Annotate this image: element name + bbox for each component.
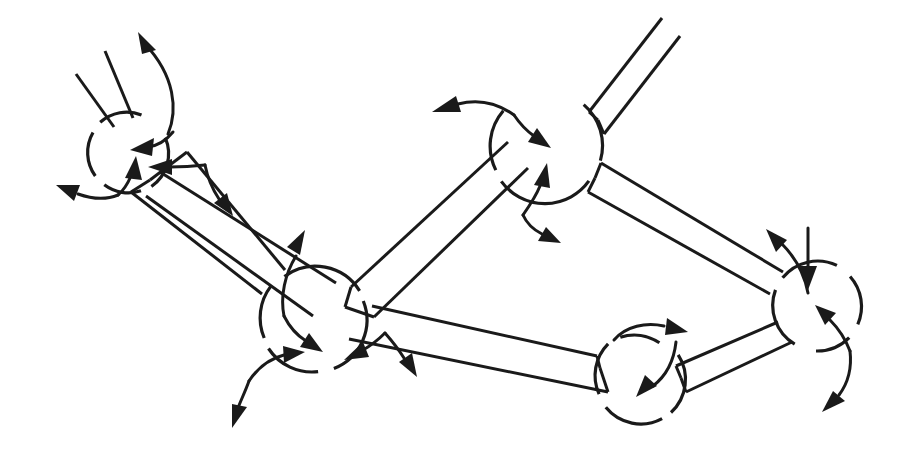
arrow-tl-out-up [138, 32, 173, 134]
edge-left-lower-to-bottom-right [146, 172, 608, 392]
node-top-right[interactable] [490, 105, 602, 204]
arrow-ll-out-downright [385, 333, 417, 377]
arrow-ll-in-right [249, 346, 305, 381]
node-layer [88, 105, 862, 424]
arrow-r-out-up [766, 229, 808, 293]
edge-bottom-right-to-right [676, 322, 792, 392]
arrow-ll-out-down [232, 381, 249, 428]
arrow-r-in-upleft [815, 305, 850, 351]
figure-canvas [0, 0, 911, 459]
arrow-r-out-downleft [822, 351, 851, 412]
arrow-ll-in-down [284, 316, 323, 352]
arrow-layer [56, 32, 851, 428]
arrow-r-in-down [799, 228, 817, 290]
ribbon-graph-diagram [0, 0, 911, 459]
node-bottom-right[interactable] [595, 335, 685, 424]
edge-top-left-to-open-upper [76, 51, 133, 127]
arrow-br-in-down [636, 342, 676, 397]
arrow-tr-out-downright [523, 215, 561, 243]
arrow-tr-in-down [514, 115, 551, 148]
edge-layer [76, 18, 792, 392]
edge-left-lower-to-top-right [345, 142, 528, 317]
edge-top-right-to-open-upper-right [589, 18, 680, 134]
arrow-tl-in-up [118, 156, 142, 195]
edge-top-right-to-right [588, 163, 783, 294]
